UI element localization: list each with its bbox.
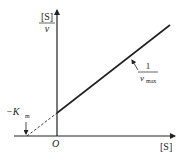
y-axis-label: [S] v bbox=[39, 11, 55, 34]
data-line bbox=[57, 25, 170, 113]
svg-text:−K: −K bbox=[6, 106, 21, 117]
hanes-woolf-diagram: [S] v 1 v max −K m O [S] bbox=[0, 0, 183, 162]
origin-label: O bbox=[52, 138, 59, 149]
x-axis-label: [S] bbox=[160, 141, 172, 152]
svg-text:v: v bbox=[140, 73, 144, 83]
slope-pointer bbox=[132, 60, 138, 70]
extrapolation-line bbox=[27, 113, 57, 136]
svg-text:max: max bbox=[146, 78, 156, 84]
svg-text:1: 1 bbox=[146, 61, 151, 71]
svg-text:v: v bbox=[45, 23, 50, 34]
km-intercept-label: −K m bbox=[6, 106, 30, 119]
svg-text:m: m bbox=[25, 113, 30, 119]
slope-label: 1 v max bbox=[138, 61, 158, 84]
svg-text:[S]: [S] bbox=[41, 11, 53, 22]
